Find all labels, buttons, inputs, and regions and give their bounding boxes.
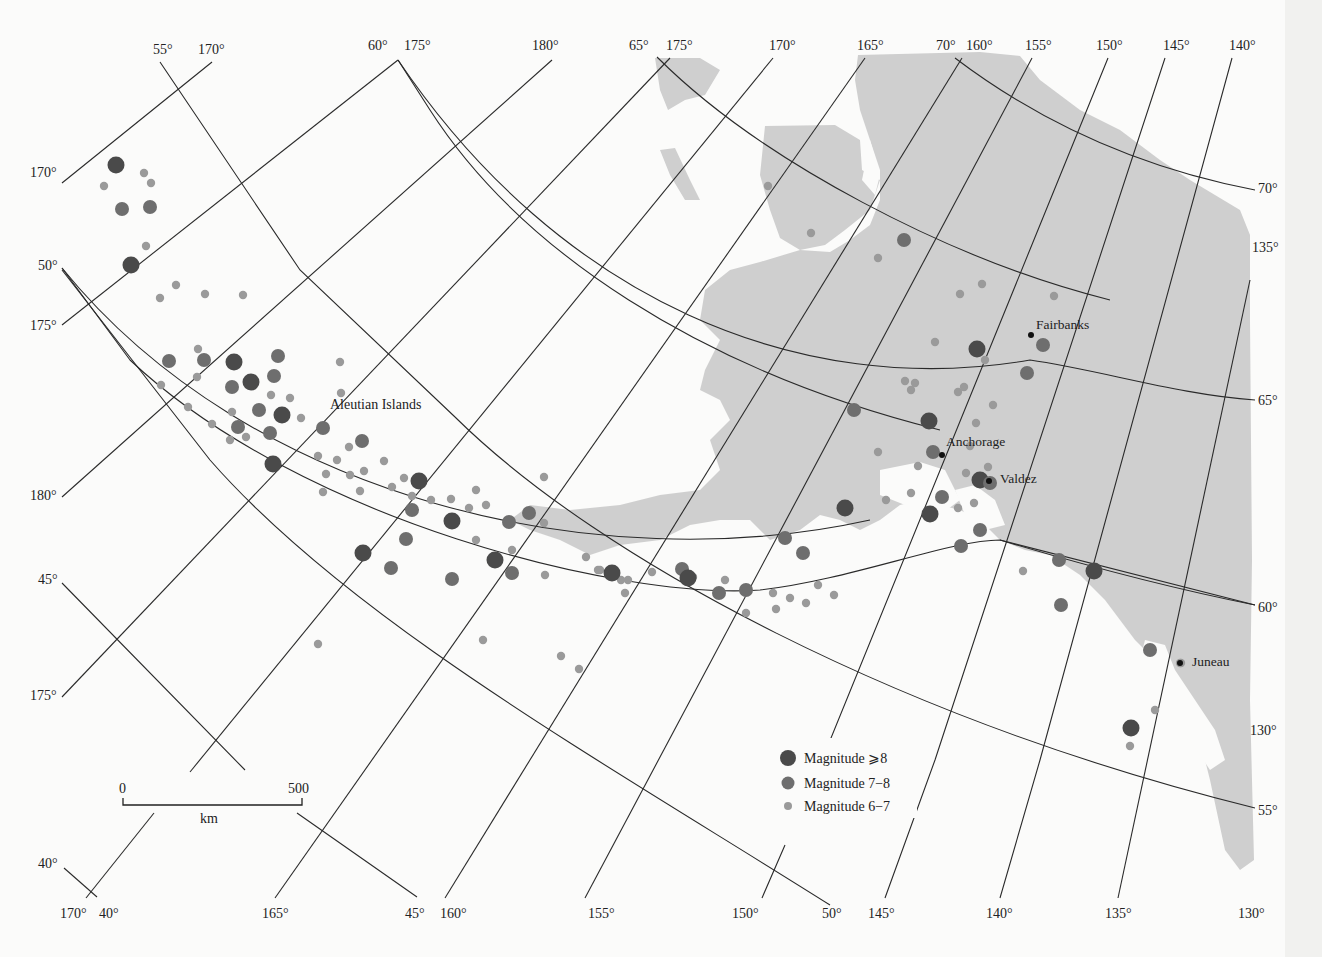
epicenter-mag6-7 bbox=[427, 496, 435, 504]
epicenter-mag7-8 bbox=[847, 403, 861, 417]
city-dot-icon bbox=[1028, 332, 1034, 338]
legend-label-mag6: Magnitude 6−7 bbox=[804, 799, 890, 814]
epicenter-mag7-8 bbox=[1054, 598, 1068, 612]
epicenter-mag8 bbox=[1086, 563, 1103, 580]
graticule-label: 155° bbox=[1025, 38, 1052, 53]
graticule-label: 70° bbox=[1258, 181, 1278, 196]
epicenter-mag7-8 bbox=[926, 445, 940, 459]
epicenter-mag7-8 bbox=[231, 420, 245, 434]
graticule-label: 50° bbox=[38, 258, 58, 273]
epicenter-mag8 bbox=[108, 157, 125, 174]
scale-unit-label: km bbox=[200, 811, 218, 826]
legend-marker-small-icon bbox=[784, 802, 792, 810]
graticule-label: 135° bbox=[1252, 240, 1279, 255]
epicenter-mag6-7 bbox=[1019, 567, 1027, 575]
scale-end-label: 500 bbox=[288, 781, 309, 796]
epicenter-mag6-7 bbox=[764, 182, 772, 190]
graticule-label: 50° bbox=[822, 906, 842, 921]
epicenter-mag6-7 bbox=[388, 483, 396, 491]
graticule-label: 60° bbox=[1258, 600, 1278, 615]
city-dot-icon bbox=[1177, 660, 1183, 666]
epicenter-mag6-7 bbox=[769, 589, 777, 597]
graticule-label: 40° bbox=[99, 906, 119, 921]
graticule-label: 170° bbox=[60, 906, 87, 921]
epicenter-mag7-8 bbox=[316, 421, 330, 435]
legend-label-mag8: Magnitude ⩾8 bbox=[804, 751, 887, 766]
epicenter-mag6-7 bbox=[408, 492, 416, 500]
graticule-label: 165° bbox=[857, 38, 884, 53]
epicenter-mag6-7 bbox=[140, 169, 148, 177]
epicenter-mag6-7 bbox=[914, 462, 922, 470]
graticule-label: 180° bbox=[30, 488, 57, 503]
epicenter-mag6-7 bbox=[954, 504, 962, 512]
epicenter-mag7-8 bbox=[502, 515, 516, 529]
region-label-aleutian-islands: Aleutian Islands bbox=[330, 397, 421, 412]
epicenter-mag6-7 bbox=[345, 443, 353, 451]
epicenter-mag7-8 bbox=[405, 503, 419, 517]
epicenter-mag7-8 bbox=[143, 200, 157, 214]
epicenter-mag6-7 bbox=[157, 381, 165, 389]
epicenter-mag8 bbox=[265, 456, 282, 473]
epicenter-mag6-7 bbox=[956, 290, 964, 298]
epicenter-mag6-7 bbox=[960, 383, 968, 391]
epicenter-mag6-7 bbox=[575, 665, 583, 673]
epicenter-mag8 bbox=[680, 570, 697, 587]
epicenter-mag7-8 bbox=[712, 586, 726, 600]
epicenter-mag6-7 bbox=[508, 546, 516, 554]
city-label-fairbanks: Fairbanks bbox=[1036, 317, 1089, 332]
epicenter-mag6-7 bbox=[541, 571, 549, 579]
epicenter-mag6-7 bbox=[447, 495, 455, 503]
graticule-label: 170° bbox=[769, 38, 796, 53]
epicenter-mag6-7 bbox=[147, 179, 155, 187]
epicenter-mag6-7 bbox=[874, 448, 882, 456]
epicenter-mag6-7 bbox=[972, 419, 980, 427]
graticule-label: 175° bbox=[30, 318, 57, 333]
epicenter-mag6-7 bbox=[874, 254, 882, 262]
epicenter-mag7-8 bbox=[739, 583, 753, 597]
graticule-label: 175° bbox=[666, 38, 693, 53]
legend: Magnitude ⩾8 Magnitude 7−8 Magnitude 6−7 bbox=[772, 738, 917, 818]
epicenter-mag7-8 bbox=[1143, 643, 1157, 657]
epicenter-mag6-7 bbox=[337, 389, 345, 397]
epicenter-mag8 bbox=[922, 506, 939, 523]
graticule-label: 155° bbox=[588, 906, 615, 921]
epicenter-mag7-8 bbox=[1052, 553, 1066, 567]
epicenter-mag6-7 bbox=[989, 401, 997, 409]
epicenter-mag6-7 bbox=[297, 414, 305, 422]
scale-start-label: 0 bbox=[119, 781, 126, 796]
epicenter-mag7-8 bbox=[399, 532, 413, 546]
epicenter-mag6-7 bbox=[194, 345, 202, 353]
epicenter-mag8 bbox=[444, 513, 461, 530]
epicenter-mag6-7 bbox=[582, 553, 590, 561]
epicenter-mag7-8 bbox=[263, 426, 277, 440]
city-dot-icon bbox=[986, 478, 992, 484]
epicenter-mag6-7 bbox=[472, 486, 480, 494]
epicenter-mag6-7 bbox=[100, 182, 108, 190]
epicenter-mag6-7 bbox=[802, 599, 810, 607]
epicenter-mag6-7 bbox=[621, 589, 629, 597]
epicenter-mag6-7 bbox=[901, 377, 909, 385]
epicenter-mag7-8 bbox=[973, 523, 987, 537]
epicenter-mag6-7 bbox=[482, 501, 490, 509]
epicenter-mag8 bbox=[274, 407, 291, 424]
epicenter-mag6-7 bbox=[380, 457, 388, 465]
epicenter-mag7-8 bbox=[384, 561, 398, 575]
epicenter-mag7-8 bbox=[225, 380, 239, 394]
epicenter-mag6-7 bbox=[772, 605, 780, 613]
epicenter-mag6-7 bbox=[142, 242, 150, 250]
epicenter-mag6-7 bbox=[184, 403, 192, 411]
epicenter-mag7-8 bbox=[796, 546, 810, 560]
epicenter-mag6-7 bbox=[336, 358, 344, 366]
graticule-label: 130° bbox=[1250, 723, 1277, 738]
legend-marker-large-icon bbox=[780, 750, 796, 766]
epicenter-mag7-8 bbox=[267, 369, 281, 383]
epicenter-mag6-7 bbox=[267, 391, 275, 399]
graticule-label: 140° bbox=[986, 906, 1013, 921]
epicenter-mag8 bbox=[355, 545, 372, 562]
epicenter-mag7-8 bbox=[897, 233, 911, 247]
epicenter-mag6-7 bbox=[156, 294, 164, 302]
epicenter-mag6-7 bbox=[242, 433, 250, 441]
earthquake-map: FairbanksAnchorageValdezJuneau Aleutian … bbox=[0, 0, 1322, 957]
epicenter-mag6-7 bbox=[314, 452, 322, 460]
epicenter-mag6-7 bbox=[360, 467, 368, 475]
